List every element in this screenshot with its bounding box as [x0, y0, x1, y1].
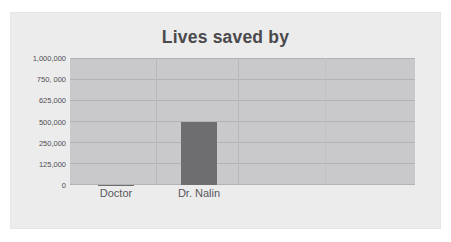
- x-axis-tick-label: Doctor: [100, 187, 132, 199]
- gridline-vertical: [238, 58, 239, 185]
- x-axis-tick-labels: Doctor Dr. Nalin: [70, 187, 415, 205]
- y-axis-tick-label: 125,000: [10, 159, 66, 168]
- gridline-horizontal: [70, 79, 415, 80]
- y-axis-tick-label: 0: [10, 181, 66, 190]
- y-axis-tick-label: 500,000: [10, 117, 66, 126]
- chart-card: Lives saved by 1,000,000 750, 000 625,00…: [11, 13, 440, 228]
- y-axis-tick-label: 1,000,000: [10, 54, 66, 63]
- gridline-vertical: [325, 58, 326, 185]
- gridline-horizontal: [70, 100, 415, 101]
- x-axis-tick-label: Dr. Nalin: [178, 187, 220, 199]
- y-axis-tick-label: 625,000: [10, 96, 66, 105]
- chart-title: Lives saved by: [11, 27, 440, 48]
- y-axis-tick-label: 250,000: [10, 138, 66, 147]
- gridline-horizontal: [70, 121, 415, 122]
- bar-doctor: [98, 185, 134, 186]
- gridline-horizontal: [70, 58, 415, 59]
- gridline-horizontal: [70, 163, 415, 164]
- bar-dr-nalin: [181, 122, 217, 186]
- gridline-vertical: [156, 58, 157, 185]
- chart-screenshot: Lives saved by 1,000,000 750, 000 625,00…: [0, 0, 451, 242]
- plot-area: [70, 58, 415, 185]
- gridline-horizontal: [70, 142, 415, 143]
- y-axis-tick-labels: 1,000,000 750, 000 625,000 500,000 250,0…: [11, 58, 66, 185]
- y-axis-tick-label: 750, 000: [10, 75, 66, 84]
